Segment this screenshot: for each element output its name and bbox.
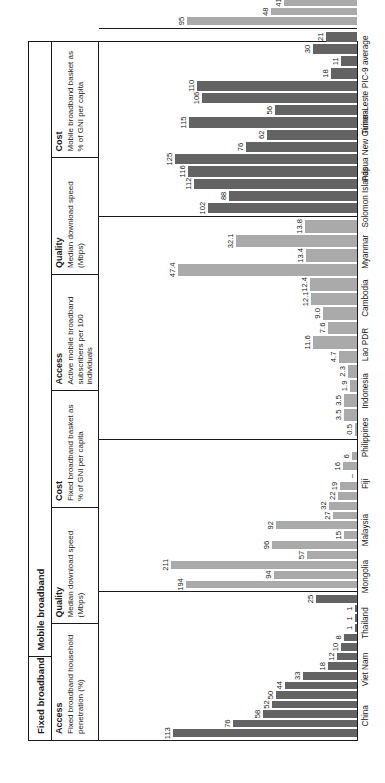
category-label: Fiji: [358, 462, 382, 506]
group-header-fixed-broadband-label: Fixed broadband: [35, 657, 46, 734]
bar-value-label: 106: [193, 92, 201, 105]
bar-column: 125: [99, 154, 357, 164]
category-label: Malaysia: [358, 508, 382, 552]
panel-header-description: Active mobile broadband subscribers per …: [66, 281, 95, 385]
bar-value-label: 2.3: [339, 366, 347, 377]
bar-column: 32: [99, 502, 357, 510]
bar: [348, 365, 357, 378]
bar: [341, 643, 357, 651]
bar-value-label: 32.1: [227, 234, 235, 249]
figure-table-border: Fixed broadband Mobile broadband AccessF…: [28, 41, 358, 741]
bar: [229, 191, 357, 201]
bar-value-label: 58: [254, 710, 262, 718]
group-header-mobile-broadband-label: Mobile broadband: [35, 569, 46, 651]
bar: [274, 571, 357, 579]
bar-group: 0.53.53.51.92.34.711.67.69.012.112.447.4…: [99, 220, 357, 435]
bar-column: 12: [99, 653, 357, 661]
bar: [328, 662, 357, 670]
bar-value-label: 211: [162, 559, 170, 571]
bar-value-label: 7.6: [319, 323, 327, 334]
bar-value-label: 48: [262, 8, 270, 16]
bar: [173, 729, 357, 737]
bar-column: 47.4: [99, 264, 357, 277]
category-label: Thailand: [358, 601, 382, 645]
bar-value-label: 113: [164, 727, 172, 739]
bar-value-label: 115: [180, 116, 188, 128]
panel-header-mobile-broadband-quality: QualityMedian download speed (Mbps): [52, 158, 98, 275]
bar: [197, 81, 357, 91]
bar-group: 1028811211612576621155610611018113021: [99, 32, 357, 214]
bar: [208, 203, 357, 213]
bar: [236, 235, 357, 248]
bar-column: 95: [99, 17, 357, 24]
bar-column: 62: [99, 130, 357, 140]
bar: [188, 166, 357, 176]
bar: [186, 581, 357, 589]
panel-header-title: Quality: [54, 165, 65, 269]
category-label: China: [358, 694, 382, 738]
panel-header-title: Access: [54, 281, 65, 385]
group-header-fixed-broadband: Fixed broadband: [29, 656, 51, 740]
bar-column: 110: [99, 81, 357, 91]
panel-fixed-broadband-cost: 0.53.53.51.92.34.711.67.69.012.112.447.4…: [99, 216, 357, 438]
category-label: PIC-9 average: [358, 44, 382, 88]
bar-column: 27: [99, 512, 357, 520]
bar-column: 30: [99, 44, 357, 54]
category-label: Solomon Islands: [358, 183, 382, 227]
bar: [272, 541, 357, 549]
bar-column: 18: [99, 68, 357, 78]
bar-value-label: 194: [177, 578, 185, 591]
bar-value-label: 92: [267, 521, 275, 529]
panel-header-title: Quality: [54, 514, 65, 618]
bar-value-label: 1: [346, 607, 354, 611]
bar: [272, 701, 357, 709]
bar: [355, 624, 357, 632]
bar: [202, 93, 357, 103]
bar-column: 7.6: [99, 322, 357, 335]
bar-value-label: 19: [331, 482, 339, 490]
bar-column: 102: [99, 203, 357, 213]
category-label: Lao PDR: [358, 322, 382, 366]
bar-column: 52: [99, 701, 357, 709]
bar: [355, 614, 357, 622]
bar: [331, 68, 357, 78]
bar-value-label: 3.5: [335, 410, 343, 421]
panel-header-title: Access: [54, 631, 65, 735]
bar: [303, 672, 357, 680]
bar: [338, 492, 357, 500]
bar-column: 1: [99, 614, 357, 622]
bar-column: 6: [99, 452, 357, 460]
bar-column: 106: [99, 93, 357, 103]
bar-column: 94: [99, 571, 357, 579]
bar: [343, 462, 357, 470]
bar-column: 2.3: [99, 365, 357, 378]
broadband-indicators-figure: Fixed broadband Mobile broadband AccessF…: [0, 0, 385, 783]
bar-column: 76: [99, 720, 357, 728]
bar-value-label: 110: [188, 80, 196, 92]
bar: [310, 278, 357, 291]
bar: [328, 322, 357, 335]
bar-value-label: 11.6: [304, 335, 312, 349]
category-label: Timor-Leste: [358, 90, 382, 134]
bar-value-label: 12.1: [302, 292, 310, 307]
bar: [340, 482, 357, 490]
panel-fixed-broadband-quality: 194942115796159227322219–166: [99, 439, 357, 592]
bar-column: 0.5: [99, 423, 357, 436]
bar-column: 211: [99, 561, 357, 569]
group-header-mobile-broadband: Mobile broadband: [29, 569, 51, 657]
bar-value-label: 16: [334, 462, 342, 470]
bar-value-label: 4.7: [330, 352, 338, 363]
bar-value-label: 102: [199, 202, 207, 215]
bar: [267, 130, 357, 140]
bar: [344, 409, 357, 422]
panel-mobile-broadband-quality: 9548411549222624302423–20–: [99, 0, 357, 28]
bar-value-label: 0.5: [346, 424, 354, 435]
bar: [276, 691, 357, 699]
bar-column: 112: [99, 179, 357, 189]
bar: [316, 595, 357, 603]
bar-column: 11: [99, 56, 357, 66]
panel-header-title: Cost: [54, 48, 65, 152]
bar: [306, 249, 357, 262]
bar: [189, 117, 357, 127]
panel-header-fixed-broadband-quality: QualityMedian download speed (Mbps): [52, 507, 98, 624]
